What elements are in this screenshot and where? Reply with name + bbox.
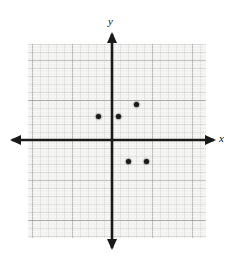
data-point (134, 102, 139, 107)
x-axis-arrow-right (205, 135, 216, 145)
data-point (126, 159, 131, 164)
data-point (116, 114, 121, 119)
data-point (144, 159, 149, 164)
y-axis-arrow-up (107, 32, 117, 43)
y-axis-arrow-down (107, 239, 117, 250)
x-axis-label: x (219, 133, 224, 144)
coordinate-plane-figure: y x (0, 0, 234, 261)
x-axis-arrow-left (10, 135, 21, 145)
data-point (96, 114, 101, 119)
axes-layer (0, 0, 234, 261)
y-axis-label: y (108, 16, 113, 27)
